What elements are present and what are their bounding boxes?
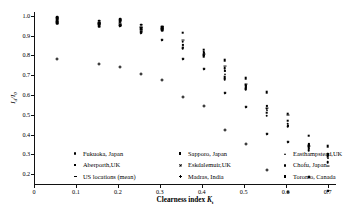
data-point xyxy=(181,95,184,98)
data-point xyxy=(56,57,59,60)
x-tick-label: 0.3 xyxy=(156,189,164,195)
data-point xyxy=(182,46,185,49)
x-tick-label: 0 xyxy=(32,189,35,195)
data-point xyxy=(244,106,247,109)
legend-item[interactable]: US locations (mean) xyxy=(72,174,177,180)
y-tick-label: 0.4 xyxy=(23,131,30,137)
data-point xyxy=(98,62,101,65)
legend-item-label: US locations (mean) xyxy=(83,174,136,180)
data-point xyxy=(326,190,329,193)
data-point xyxy=(244,143,247,146)
data-point xyxy=(160,78,163,81)
legend-item-label: Aberporth,UK xyxy=(83,162,120,168)
legend: Fukuoka, JapanSapporo, JapanEasthampstea… xyxy=(72,148,360,183)
data-point xyxy=(202,67,205,70)
y-tick xyxy=(31,135,35,136)
data-point xyxy=(202,53,205,54)
data-point xyxy=(181,39,184,40)
legend-item[interactable]: Aberporth,UK xyxy=(72,162,177,168)
plot-area: 1.00.90.80.70.60.50.40.30.2 00.10.20.30.… xyxy=(34,12,336,184)
y-tick xyxy=(31,95,35,96)
legend-item-label: Toronto, Canada xyxy=(293,174,336,180)
data-point xyxy=(286,119,289,122)
figure-canvas: 1.00.90.80.70.60.50.40.30.2 00.10.20.30.… xyxy=(0,0,360,209)
legend-item[interactable]: Toronto, Canada xyxy=(282,174,360,180)
legend-item[interactable]: Fukuoka, Japan xyxy=(72,151,177,157)
data-point xyxy=(56,21,59,24)
y-tick-label: 0.6 xyxy=(23,92,30,98)
square-small-marker-icon xyxy=(72,162,78,168)
legend-item[interactable]: Madras, India xyxy=(177,174,282,180)
data-point xyxy=(244,84,247,85)
y-tick xyxy=(31,115,35,116)
data-point xyxy=(223,92,226,95)
data-point xyxy=(286,140,289,143)
x-axis-line xyxy=(34,184,336,185)
data-point xyxy=(203,55,206,58)
data-point xyxy=(119,24,122,27)
y-tick xyxy=(31,55,35,56)
data-point xyxy=(139,72,142,75)
data-point xyxy=(224,76,227,79)
data-point xyxy=(98,23,101,26)
y-tick-label: 0.3 xyxy=(23,151,30,157)
x-tick-label: 0.5 xyxy=(240,189,248,195)
y-axis-title: Id/I0 xyxy=(10,92,18,104)
data-point xyxy=(202,104,205,107)
legend-item[interactable]: Sapporo, Japan xyxy=(177,151,282,157)
legend-item-label: Easthampstead,UK xyxy=(293,151,342,157)
x-axis-title-subscript: t xyxy=(212,200,214,205)
data-point xyxy=(181,57,184,60)
data-point xyxy=(265,114,268,117)
data-point xyxy=(223,66,226,67)
data-point xyxy=(98,26,101,29)
y-tick xyxy=(31,154,35,155)
x-axis-title: Clearness index Kt xyxy=(157,197,214,205)
data-point xyxy=(140,28,143,31)
data-point xyxy=(245,87,248,90)
data-point xyxy=(118,66,121,69)
y-tick-label: 0.7 xyxy=(23,72,30,78)
legend-item[interactable]: Easthampstead,UK xyxy=(282,151,360,157)
x-axis-title-main: Clearness index xyxy=(157,196,206,204)
data-point xyxy=(182,31,185,34)
y-tick xyxy=(31,36,35,37)
legend-item-label: Chofu, Japan xyxy=(293,162,327,168)
legend-item[interactable]: Eskdalemuir,UK xyxy=(177,162,282,168)
y-tick xyxy=(31,16,35,17)
data-point xyxy=(265,132,268,135)
data-point xyxy=(224,59,227,62)
data-points-layer xyxy=(34,12,336,90)
x-tick-label: 0.2 xyxy=(114,189,122,195)
legend-item-label: Fukuoka, Japan xyxy=(83,151,123,157)
square-marker-icon xyxy=(282,174,288,180)
data-point xyxy=(265,112,268,115)
x-marker-icon xyxy=(177,162,183,168)
y-tick-label: 0.8 xyxy=(23,52,30,58)
data-point xyxy=(224,70,226,72)
y-tick xyxy=(31,174,35,175)
data-point xyxy=(56,16,59,19)
circle-marker-icon xyxy=(72,151,78,157)
data-point xyxy=(245,77,248,80)
data-point xyxy=(139,26,142,27)
x-tick-label: 0.1 xyxy=(72,189,80,195)
data-point xyxy=(161,26,164,29)
data-point xyxy=(160,29,163,30)
plus-marker-icon xyxy=(177,174,183,180)
triangle-marker-icon xyxy=(282,151,288,157)
data-point xyxy=(307,134,310,137)
y-tick-label: 0.9 xyxy=(23,33,30,39)
legend-item-label: Eskdalemuir,UK xyxy=(188,162,231,168)
legend-item[interactable]: Chofu, Japan xyxy=(282,162,360,168)
data-point xyxy=(286,125,289,128)
data-point xyxy=(286,114,289,115)
y-tick xyxy=(31,75,35,76)
legend-item-label: Sapporo, Japan xyxy=(188,151,227,157)
data-point xyxy=(160,38,163,41)
y-tick-label: 1.0 xyxy=(23,13,30,19)
legend-item-label: Madras, India xyxy=(188,174,224,180)
square-marker-icon xyxy=(177,151,183,157)
y-axis-line xyxy=(34,12,35,184)
dash-marker-icon xyxy=(72,174,78,180)
